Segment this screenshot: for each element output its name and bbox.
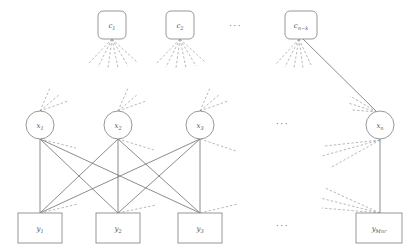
- dashed-stub-below-x2: [118, 139, 154, 150]
- variable-node-x3[interactable]: x3: [186, 111, 214, 139]
- dashed-fan-below-xn: [322, 140, 380, 168]
- dashed-stub-above-y2: [118, 205, 156, 213]
- edge-cnk-to-xn: [303, 39, 377, 112]
- variable-node-x1[interactable]: x1: [26, 111, 54, 139]
- output-node-y3[interactable]: y3: [178, 213, 222, 243]
- dashed-fan-above-x3: [200, 88, 228, 111]
- output-node-y1[interactable]: y1: [18, 213, 62, 243]
- output-node-y2[interactable]: y2: [96, 213, 140, 243]
- dashed-fan-check-cnk: [276, 39, 311, 68]
- check-row-ellipsis: ···: [229, 22, 242, 31]
- factor-graph-diagram: c1 c2 cn−k x1 x2 x3 xn: [0, 0, 409, 247]
- dashed-fan-above-yMnr: [320, 188, 380, 213]
- output-node-yMnr[interactable]: yMnr: [356, 213, 402, 243]
- dashed-fan-above-x1: [40, 88, 68, 111]
- edges-variable-to-output-mesh: [40, 139, 200, 213]
- dashed-fan-check-c1: [88, 39, 137, 68]
- dashed-fan-check-c2: [156, 39, 205, 68]
- dashed-stub-below-x1: [40, 139, 76, 148]
- dashed-fan-above-x2: [118, 88, 146, 111]
- check-node-c2[interactable]: c2: [166, 11, 194, 39]
- variable-node-x2[interactable]: x2: [104, 111, 132, 139]
- variable-row-ellipsis: ···: [276, 120, 289, 129]
- variable-node-xn[interactable]: xn: [366, 111, 394, 139]
- dashed-stub-below-x3: [200, 139, 236, 151]
- output-row-ellipsis: ···: [276, 222, 289, 231]
- dashed-stub-above-y3: [200, 204, 238, 213]
- dashed-stub-above-y1: [40, 204, 78, 213]
- check-node-c1[interactable]: c1: [98, 11, 126, 39]
- check-node-cnk[interactable]: cn−k: [285, 11, 317, 39]
- dashed-fan-above-xn: [348, 96, 377, 112]
